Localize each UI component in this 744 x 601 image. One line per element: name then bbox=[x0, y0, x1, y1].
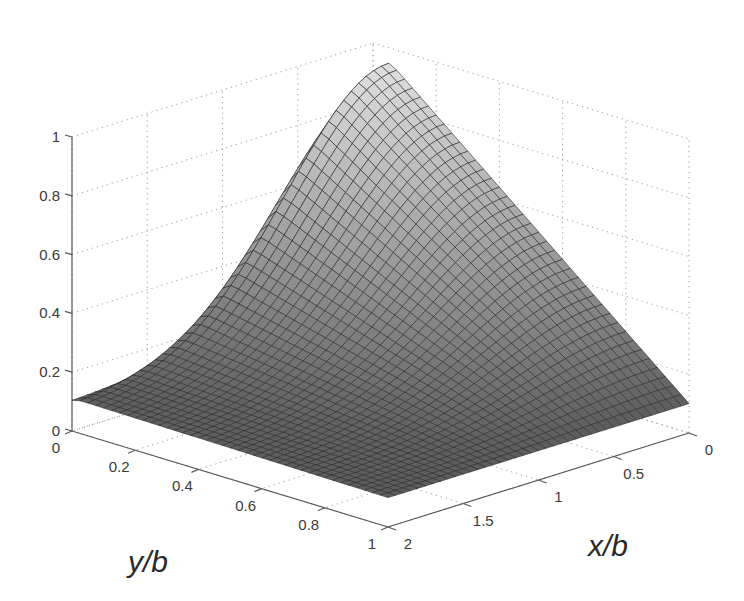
y-axis-label: y/b bbox=[126, 545, 168, 578]
y-tick bbox=[255, 489, 262, 492]
z-tick bbox=[65, 370, 72, 372]
surface-plot-svg: 00.20.40.60.8100.20.40.60.8100.511.52 y/… bbox=[0, 0, 744, 601]
x-tick-label: 0.5 bbox=[623, 465, 644, 482]
x-tick bbox=[614, 457, 622, 460]
x-tick-label: 1 bbox=[554, 488, 562, 505]
x-tick bbox=[689, 433, 697, 436]
y-tick-label: 0.4 bbox=[172, 477, 193, 494]
z-tick-label: 0.6 bbox=[39, 246, 60, 263]
z-tick bbox=[65, 135, 72, 137]
y-tick-label: 0.6 bbox=[235, 497, 256, 514]
y-tick bbox=[65, 431, 72, 434]
z-tick-label: 0.4 bbox=[39, 304, 60, 321]
y-tick bbox=[381, 527, 388, 530]
x-tick bbox=[463, 504, 471, 507]
y-tick bbox=[191, 469, 198, 472]
x-tick bbox=[539, 480, 547, 483]
surface-plot-figure: 00.20.40.60.8100.20.40.60.8100.511.52 y/… bbox=[0, 0, 744, 601]
z-tick bbox=[65, 253, 72, 255]
y-tick bbox=[128, 450, 135, 453]
z-tick-label: 1 bbox=[52, 128, 60, 145]
z-tick bbox=[65, 429, 72, 431]
z-tick-label: 0.2 bbox=[39, 363, 60, 380]
y-tick-label: 1 bbox=[368, 535, 376, 552]
z-tick-label: 0 bbox=[52, 422, 60, 439]
x-tick-label: 0 bbox=[705, 441, 713, 458]
y-tick-label: 0.8 bbox=[298, 516, 319, 533]
x-tick-label: 2 bbox=[404, 535, 412, 552]
z-tick bbox=[65, 194, 72, 196]
y-tick bbox=[318, 508, 325, 511]
z-tick bbox=[65, 311, 72, 313]
x-tick bbox=[388, 527, 396, 530]
y-tick-label: 0.2 bbox=[109, 458, 130, 475]
z-tick-label: 0.8 bbox=[39, 187, 60, 204]
y-tick-label: 0 bbox=[52, 439, 60, 456]
x-tick-label: 1.5 bbox=[473, 512, 494, 529]
x-axis-label: x/b bbox=[586, 529, 628, 562]
surface-mesh bbox=[72, 63, 689, 497]
